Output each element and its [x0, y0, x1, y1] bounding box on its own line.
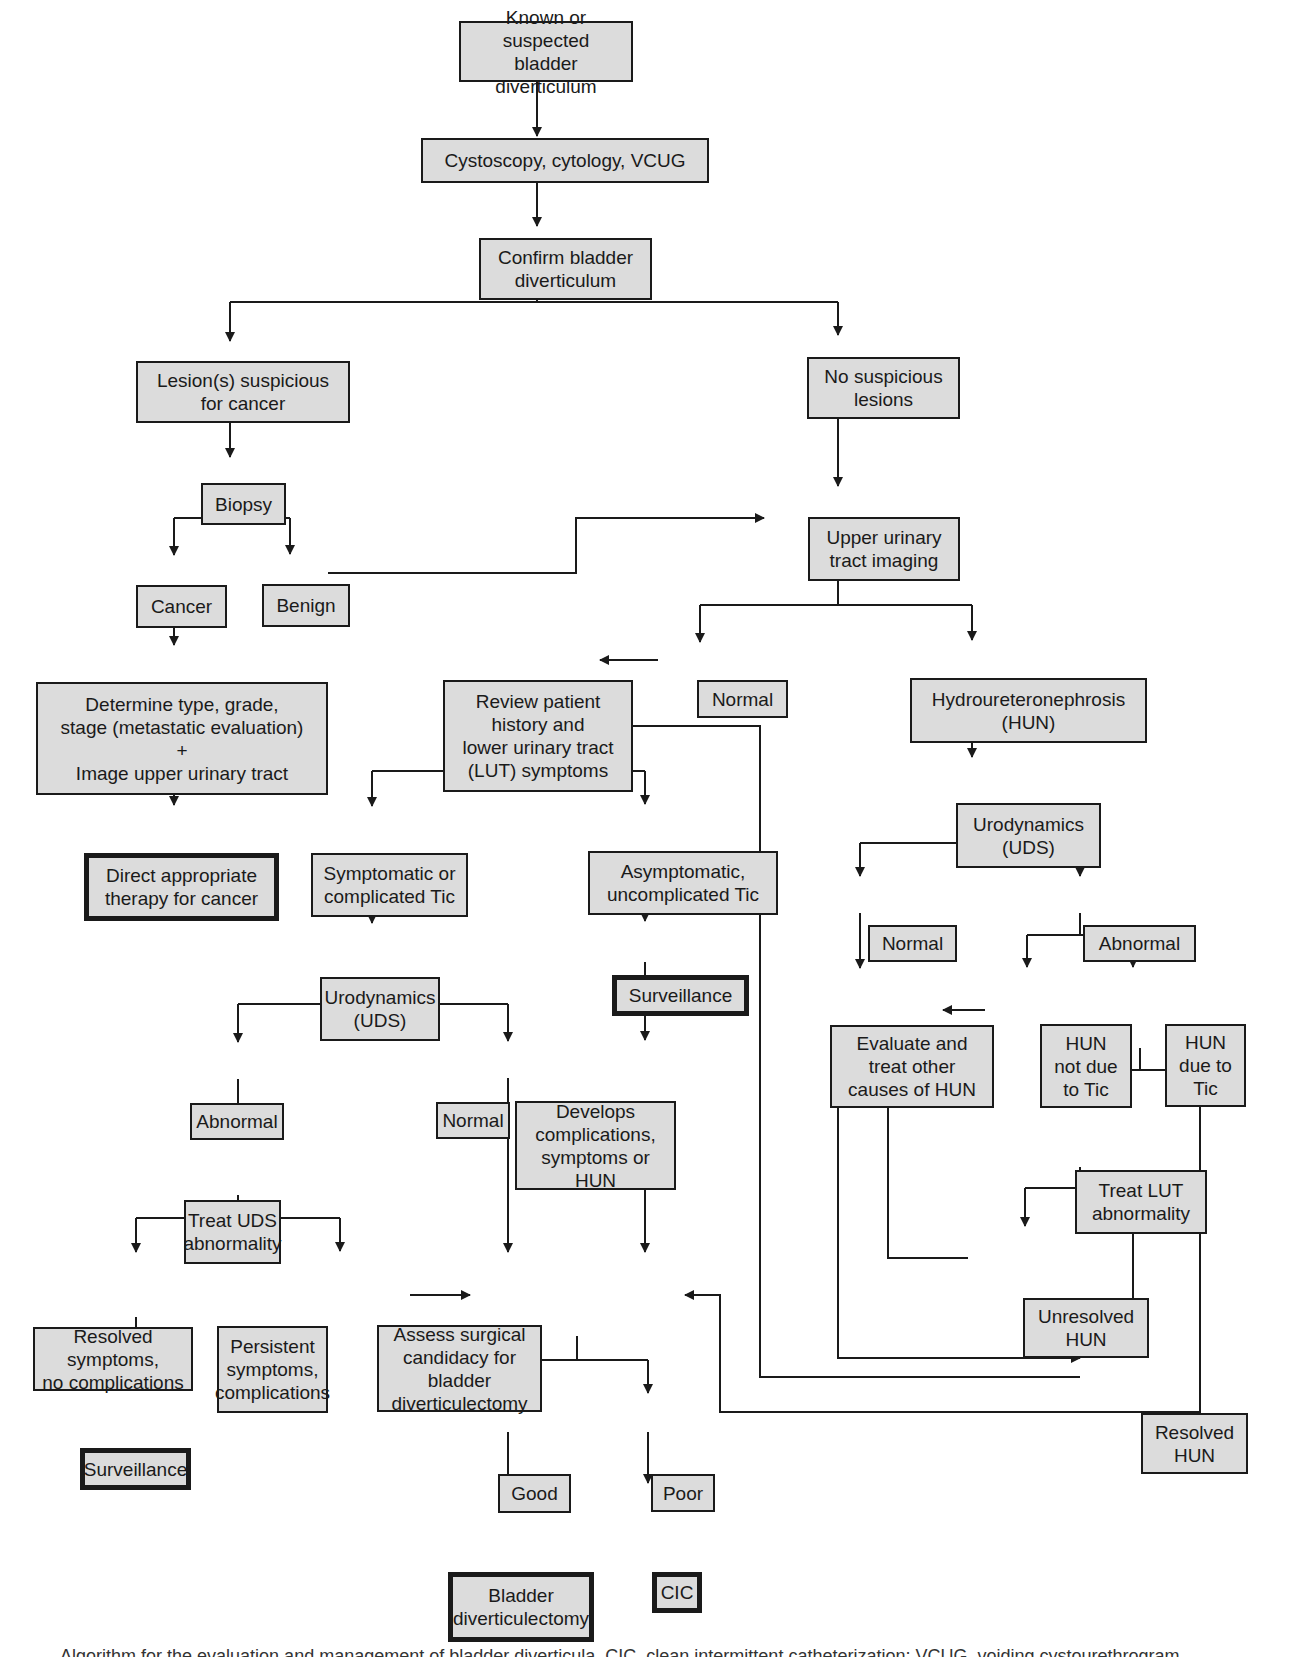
node-persistent-symptoms: Persistent symptoms, complications [217, 1326, 328, 1413]
node-treat-uds-abnormality: Treat UDS abnormality [184, 1200, 281, 1264]
node-cancer: Cancer [136, 585, 227, 628]
node-cystoscopy: Cystoscopy, cytology, VCUG [421, 138, 709, 183]
flowchart-canvas: Known or suspected bladder diverticulum … [0, 0, 1290, 1657]
node-hun-not-due-tic: HUN not due to Tic [1040, 1024, 1132, 1108]
node-good-candidacy: Good [498, 1474, 571, 1513]
node-normal-left: Normal [436, 1102, 510, 1139]
node-benign: Benign [262, 584, 350, 627]
node-develops-complications: Develops complications, symptoms or HUN [515, 1101, 676, 1190]
node-unresolved-hun: Unresolved HUN [1023, 1298, 1149, 1358]
node-cic: CIC [652, 1572, 702, 1613]
node-hydroureteronephrosis: Hydroureteronephrosis (HUN) [910, 678, 1147, 743]
node-hun-due-tic: HUN due to Tic [1165, 1024, 1246, 1107]
node-abnormal-right: Abnormal [1083, 925, 1196, 962]
figure-caption-text: Algorithm for the evaluation and managem… [0, 1643, 1290, 1657]
node-direct-therapy-cancer: Direct appropriate therapy for cancer [84, 853, 279, 921]
node-surveillance-left: Surveillance [80, 1448, 191, 1490]
node-asymptomatic-tic: Asymptomatic, uncomplicated Tic [588, 851, 778, 915]
node-determine-type-grade: Determine type, grade, stage (metastatic… [36, 682, 328, 795]
node-review-patient-history: Review patient history and lower urinary… [443, 680, 633, 792]
node-treat-lut-abnormality: Treat LUT abnormality [1075, 1170, 1207, 1234]
node-normal-right: Normal [868, 925, 957, 962]
node-confirm-diverticulum: Confirm bladder diverticulum [479, 238, 652, 300]
node-no-suspicious-lesions: No suspicious lesions [807, 357, 960, 419]
node-abnormal-left: Abnormal [190, 1103, 284, 1140]
node-normal-imaging: Normal [697, 680, 788, 718]
node-urodynamics-right: Urodynamics (UDS) [956, 803, 1101, 868]
node-bladder-diverticulectomy: Bladder diverticulectomy [448, 1572, 594, 1642]
node-poor-candidacy: Poor [651, 1474, 715, 1512]
node-symptomatic-tic: Symptomatic or complicated Tic [311, 853, 468, 917]
node-known-or-suspected: Known or suspected bladder diverticulum [459, 21, 633, 82]
node-upper-urinary-imaging: Upper urinary tract imaging [808, 517, 960, 581]
node-urodynamics-left: Urodynamics (UDS) [320, 977, 440, 1041]
node-resolved-hun: Resolved HUN [1141, 1413, 1248, 1474]
node-resolved-symptoms: Resolved symptoms, no complications [33, 1327, 193, 1391]
node-surveillance-middle: Surveillance [612, 975, 749, 1016]
figure-caption: Algorithm for the evaluation and managem… [0, 1641, 1290, 1657]
node-biopsy: Biopsy [201, 483, 286, 525]
node-evaluate-other-causes: Evaluate and treat other causes of HUN [830, 1025, 994, 1108]
node-assess-surgical-candidacy: Assess surgical candidacy for bladder di… [377, 1325, 542, 1412]
node-lesion-suspicious: Lesion(s) suspicious for cancer [136, 361, 350, 423]
